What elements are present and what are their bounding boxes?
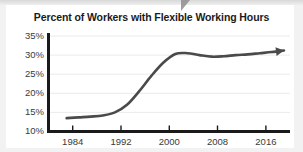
y-tick-label: 20% bbox=[10, 87, 44, 98]
y-tick-label: 15% bbox=[10, 106, 44, 117]
y-tick-label: 10% bbox=[10, 125, 44, 136]
y-tick-label: 25% bbox=[10, 68, 44, 79]
chart-figure: Percent of Workers with Flexible Working… bbox=[0, 0, 303, 152]
y-axis-tick-labels: 10%15%20%25%30%35% bbox=[10, 0, 44, 152]
x-tick-label: 1984 bbox=[53, 136, 93, 147]
x-tick-label: 2008 bbox=[198, 136, 238, 147]
x-tick-label: 2000 bbox=[149, 136, 189, 147]
y-tick-label: 35% bbox=[10, 30, 44, 41]
chart-plot-area bbox=[0, 0, 303, 152]
y-tick-label: 30% bbox=[10, 49, 44, 60]
x-tick-label: 1992 bbox=[101, 136, 141, 147]
gridlines bbox=[50, 36, 291, 112]
x-tick-marks bbox=[73, 126, 266, 131]
x-tick-label: 2016 bbox=[246, 136, 286, 147]
data-series-line bbox=[67, 51, 284, 119]
